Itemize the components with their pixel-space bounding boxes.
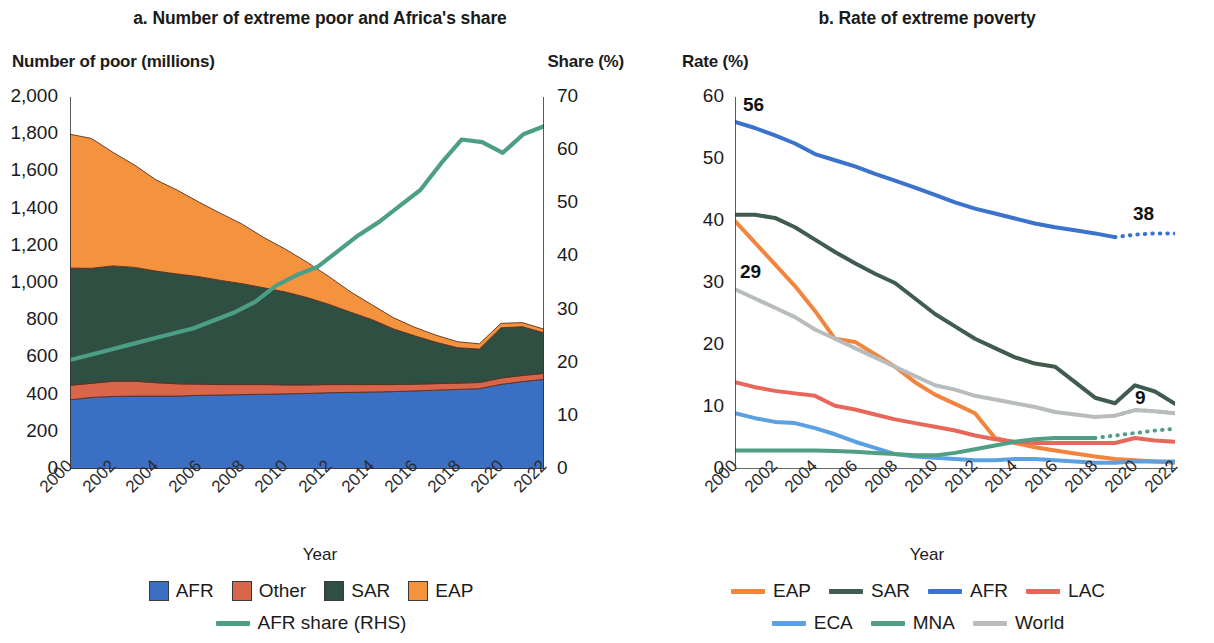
panel-b-legend-row-1: EAPSARAFRLAC bbox=[640, 580, 1214, 602]
legend-label: ECA bbox=[814, 612, 853, 634]
panel-a-y-tick-left: 600 bbox=[0, 345, 58, 367]
panel-a-title: a. Number of extreme poor and Africa's s… bbox=[0, 8, 640, 29]
panel-b-y-tick: 60 bbox=[668, 85, 724, 107]
panel-a-y-axis-label-right: Share (%) bbox=[547, 52, 624, 72]
panel-b-legend-item-world[interactable]: World bbox=[973, 612, 1064, 634]
panel-a-legend-item-eap[interactable]: EAP bbox=[408, 580, 473, 602]
panel-a-legend-item-sar[interactable]: SAR bbox=[324, 580, 390, 602]
panel-a-y-tick-left: 2,000 bbox=[0, 85, 58, 107]
panel-a-y-tick-left: 1,800 bbox=[0, 122, 58, 144]
panel-b-annotation-38: 38 bbox=[1133, 203, 1154, 225]
panel-a-legend-row-2: AFR share (RHS) bbox=[0, 612, 640, 634]
legend-label: SAR bbox=[351, 580, 390, 602]
legend-label: EAP bbox=[773, 580, 811, 602]
panel-a-legend-item-afr-share-rhs[interactable]: AFR share (RHS) bbox=[216, 612, 407, 634]
legend-swatch-icon bbox=[324, 581, 344, 601]
panel-a-y-tick-left: 1,200 bbox=[0, 234, 58, 256]
panel-b-y-tick: 20 bbox=[668, 333, 724, 355]
panel-a-y-tick-right: 60 bbox=[557, 138, 578, 160]
legend-label: MNA bbox=[913, 612, 955, 634]
legend-line-icon bbox=[772, 621, 806, 626]
panel-a-x-axis-label: Year bbox=[0, 545, 640, 565]
legend-label: LAC bbox=[1068, 580, 1105, 602]
panel-a-y-tick-right: 30 bbox=[557, 298, 578, 320]
legend-label: EAP bbox=[435, 580, 473, 602]
legend-line-icon bbox=[216, 621, 250, 626]
legend-label: AFR bbox=[970, 580, 1008, 602]
panel-b: b. Rate of extreme poverty Rate (%) 0102… bbox=[640, 0, 1214, 643]
panel-a-y-tick-left: 1,000 bbox=[0, 271, 58, 293]
panel-a-legend-item-other[interactable]: Other bbox=[232, 580, 307, 602]
legend-line-icon bbox=[829, 589, 863, 594]
legend-label: SAR bbox=[871, 580, 910, 602]
panel-a-y-tick-right: 40 bbox=[557, 244, 578, 266]
panel-b-y-tick: 40 bbox=[668, 209, 724, 231]
panel-a-y-tick-right: 50 bbox=[557, 191, 578, 213]
panel-b-legend-item-sar[interactable]: SAR bbox=[829, 580, 910, 602]
legend-swatch-icon bbox=[149, 581, 169, 601]
panel-a-legend-item-afr[interactable]: AFR bbox=[149, 580, 214, 602]
panel-a: a. Number of extreme poor and Africa's s… bbox=[0, 0, 640, 643]
legend-line-icon bbox=[731, 589, 765, 594]
panel-a-y-tick-right: 10 bbox=[557, 404, 578, 426]
panel-a-y-tick-right: 70 bbox=[557, 85, 578, 107]
legend-label: World bbox=[1015, 612, 1064, 634]
panel-b-legend-item-lac[interactable]: LAC bbox=[1026, 580, 1105, 602]
panel-a-y-axis-label-left: Number of poor (millions) bbox=[12, 52, 215, 72]
panel-a-legend-row-1: AFROtherSAREAP bbox=[0, 580, 640, 602]
legend-label: AFR bbox=[176, 580, 214, 602]
panel-b-title: b. Rate of extreme poverty bbox=[640, 8, 1214, 29]
panel-a-y-tick-right: 0 bbox=[557, 457, 568, 479]
legend-label: Other bbox=[259, 580, 307, 602]
panel-a-y-tick-right: 20 bbox=[557, 351, 578, 373]
panel-b-y-axis-label: Rate (%) bbox=[682, 52, 748, 72]
panel-b-annotation-9: 9 bbox=[1135, 387, 1146, 409]
panel-b-legend-item-eca[interactable]: ECA bbox=[772, 612, 853, 634]
panel-b-annotation-29: 29 bbox=[740, 261, 761, 283]
panel-a-y-tick-left: 200 bbox=[0, 420, 58, 442]
panel-b-y-tick: 50 bbox=[668, 147, 724, 169]
legend-line-icon bbox=[928, 589, 962, 594]
panel-a-y-tick-left: 1,400 bbox=[0, 197, 58, 219]
panel-a-y-tick-left: 800 bbox=[0, 308, 58, 330]
panel-b-annotation-56: 56 bbox=[743, 94, 764, 116]
panel-b-plot-area bbox=[735, 97, 1175, 469]
panel-b-legend-row-2: ECAMNAWorld bbox=[640, 612, 1214, 634]
panel-a-plot-area bbox=[70, 97, 544, 469]
legend-line-icon bbox=[973, 621, 1007, 626]
legend-line-icon bbox=[871, 621, 905, 626]
figure-container: a. Number of extreme poor and Africa's s… bbox=[0, 0, 1214, 643]
panel-b-y-tick: 30 bbox=[668, 271, 724, 293]
panel-b-y-tick: 10 bbox=[668, 395, 724, 417]
panel-a-y-tick-left: 400 bbox=[0, 383, 58, 405]
legend-swatch-icon bbox=[232, 581, 252, 601]
panel-a-y-tick-left: 1,600 bbox=[0, 159, 58, 181]
panel-b-legend-item-afr[interactable]: AFR bbox=[928, 580, 1008, 602]
panel-b-x-axis-label: Year bbox=[640, 545, 1214, 565]
panel-b-legend-item-eap[interactable]: EAP bbox=[731, 580, 811, 602]
legend-swatch-icon bbox=[408, 581, 428, 601]
legend-label: AFR share (RHS) bbox=[258, 612, 407, 634]
legend-line-icon bbox=[1026, 589, 1060, 594]
panel-b-legend-item-mna[interactable]: MNA bbox=[871, 612, 955, 634]
